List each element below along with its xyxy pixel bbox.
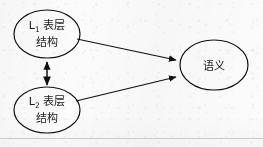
node-l2-surface-structure: L2 表层 结构 — [14, 87, 80, 133]
node-l2-line1: L2 表层 — [29, 94, 65, 110]
node-l1-ellipse — [14, 10, 80, 58]
edge-l1-to-semantics — [77, 39, 176, 60]
node-l2-label-rest: 表层 — [40, 94, 66, 108]
diagram-svg: L1 表层 结构 L2 表层 结构 语义 — [0, 0, 263, 147]
node-semantics: 语义 — [180, 40, 248, 90]
node-l1-label-rest: 表层 — [40, 18, 66, 32]
node-l1-line1: L1 表层 — [29, 18, 65, 34]
node-l2-ellipse — [14, 87, 80, 133]
figure-canvas: L1 表层 结构 L2 表层 结构 语义 — [0, 0, 263, 147]
node-l1-line2: 结构 — [36, 35, 58, 49]
node-l1-surface-structure: L1 表层 结构 — [14, 10, 80, 58]
edge-l2-to-semantics — [76, 77, 176, 101]
node-l2-line2: 结构 — [36, 111, 58, 125]
node-semantics-label: 语义 — [203, 60, 225, 73]
